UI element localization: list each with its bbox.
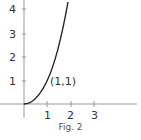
- x-tick-label: 2: [67, 109, 74, 122]
- x-tick-label: 3: [91, 109, 98, 122]
- y-tick-label: 3: [9, 28, 16, 41]
- y-tick-label: 2: [9, 51, 16, 64]
- x-tick-label: 1: [44, 109, 51, 122]
- point-label: (1,1): [50, 75, 76, 88]
- parabola-curve: [24, 2, 68, 104]
- figure-caption: Fig. 2: [0, 122, 141, 132]
- y-tick-label: 1: [9, 75, 16, 88]
- y-tick-label: 4: [9, 3, 16, 16]
- figure-plot: 1 2 3 1 2 3 4 (1,1): [0, 0, 141, 140]
